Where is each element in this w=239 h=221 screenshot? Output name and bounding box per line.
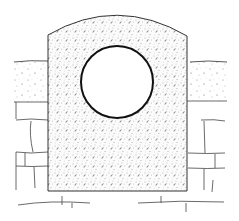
headwall-diagram: headwall with circular pipe opening set … <box>0 0 239 221</box>
pipe-opening <box>81 46 153 118</box>
soil-right <box>187 61 227 101</box>
soil-left <box>14 61 48 102</box>
